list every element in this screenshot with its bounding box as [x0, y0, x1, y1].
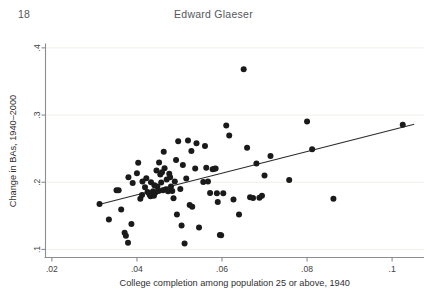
x-axis-title: College completion among population 25 o…: [120, 278, 350, 288]
data-point: [118, 206, 124, 212]
data-point: [230, 196, 236, 202]
data-point: [172, 179, 178, 185]
data-point: [162, 165, 168, 171]
data-point: [304, 118, 310, 124]
data-point: [330, 196, 336, 202]
data-point: [241, 66, 247, 72]
data-point: [218, 232, 224, 238]
data-point: [205, 179, 211, 185]
y-axis-title: Change in BAs, 1940–2000: [8, 95, 18, 207]
y-tick-label-3: .4: [33, 44, 43, 51]
data-point: [171, 195, 177, 201]
data-point: [400, 122, 406, 128]
data-point: [309, 146, 315, 152]
data-point: [97, 201, 103, 207]
data-point: [202, 143, 208, 149]
y-tick-label-2: .3: [33, 111, 43, 118]
x-tick-label-2: .06: [216, 264, 228, 274]
x-tick-label-1: .04: [131, 264, 143, 274]
data-point: [125, 240, 131, 246]
data-point: [226, 133, 232, 139]
data-point: [213, 165, 219, 171]
data-point: [179, 223, 185, 229]
x-tick-label-4: .1: [389, 264, 396, 274]
data-point: [180, 162, 186, 168]
data-point: [207, 190, 213, 196]
data-point: [169, 188, 175, 194]
data-point: [185, 138, 191, 144]
data-point: [214, 190, 220, 196]
data-point: [125, 174, 131, 180]
data-point: [167, 174, 173, 180]
data-point: [161, 149, 167, 155]
data-point: [173, 157, 179, 163]
data-point: [135, 160, 141, 166]
data-point: [193, 140, 199, 146]
data-point: [188, 148, 194, 154]
data-point: [175, 138, 181, 144]
x-axis-ticks: .02.04.06.08.1: [46, 258, 396, 274]
y-tick-label-0: .1: [33, 246, 43, 253]
data-point: [134, 170, 140, 176]
x-tick-label-3: .08: [301, 264, 313, 274]
data-point: [253, 160, 259, 166]
data-points: [97, 66, 406, 246]
data-point: [220, 190, 226, 196]
data-point: [196, 225, 202, 231]
data-point: [259, 193, 265, 199]
data-point: [123, 233, 129, 239]
data-point: [192, 165, 198, 171]
data-point: [128, 221, 134, 227]
data-point: [250, 195, 256, 201]
data-point: [183, 176, 189, 182]
data-point: [177, 186, 183, 192]
y-axis-ticks: .1.2.3.4: [33, 44, 46, 253]
data-point: [244, 145, 250, 151]
data-point: [267, 153, 273, 159]
scatter-plot-svg: .02.04.06.08.1 .1.2.3.4 College completi…: [0, 0, 427, 302]
data-point: [174, 211, 180, 217]
data-point: [182, 240, 188, 246]
scatter-figure: .02.04.06.08.1 .1.2.3.4 College completi…: [0, 0, 427, 302]
data-point: [130, 180, 136, 186]
data-point: [106, 217, 112, 223]
data-point: [143, 175, 149, 181]
data-point: [262, 173, 268, 179]
data-point: [236, 211, 242, 217]
data-point: [139, 192, 145, 198]
gridlines: [46, 48, 425, 250]
axes: [45, 44, 425, 258]
data-point: [156, 159, 162, 165]
data-point: [215, 199, 221, 205]
data-point: [158, 180, 164, 186]
data-point: [116, 187, 122, 193]
x-tick-label-0: .02: [46, 264, 58, 274]
data-point: [286, 177, 292, 183]
data-point: [189, 204, 195, 210]
data-point: [203, 165, 209, 171]
y-tick-label-1: .2: [33, 178, 43, 185]
data-point: [223, 122, 229, 128]
